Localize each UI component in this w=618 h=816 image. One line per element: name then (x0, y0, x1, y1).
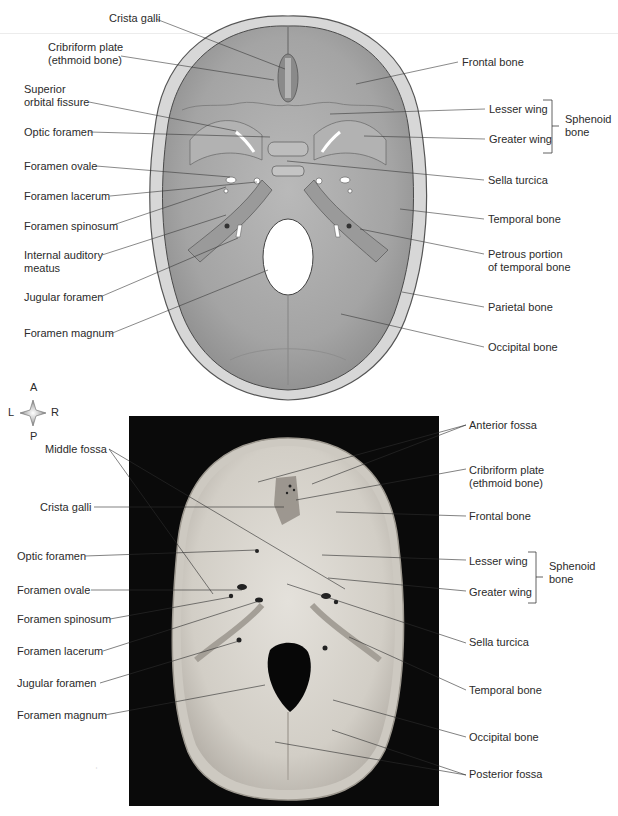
bottom-label-foramen-ovale: Foramen ovale (17, 584, 90, 597)
top-label-greater-wing: Greater wing (489, 133, 552, 146)
top-label-jugular-foramen: Jugular foramen (24, 291, 104, 304)
top-label-foramen-ovale: Foramen ovale (24, 160, 97, 173)
orientation-posterior: P (30, 430, 37, 443)
skull-illustration (150, 16, 427, 400)
bottom-label-anterior-fossa: Anterior fossa (469, 419, 537, 432)
orientation-compass-icon (20, 400, 46, 426)
top-label-superior-orbital-fissure: Superior orbital fissure (24, 83, 89, 109)
bottom-label-posterior-fossa: Posterior fossa (469, 768, 542, 781)
top-label-petrous-portion: Petrous portion of temporal bone (488, 248, 571, 274)
top-label-optic-foramen: Optic foramen (24, 126, 93, 139)
top-label-temporal-bone: Temporal bone (488, 213, 561, 226)
skull-photograph (172, 438, 403, 800)
top-label-parietal-bone: Parietal bone (488, 301, 553, 314)
bottom-label-foramen-lacerum: Foramen lacerum (17, 645, 103, 658)
top-label-internal-auditory-meatus: Internal auditory meatus (24, 249, 103, 275)
bottom-label-sella-turcica: Sella turcica (469, 636, 529, 649)
bottom-label-occipital-bone: Occipital bone (469, 731, 539, 744)
bottom-label-greater-wing: Greater wing (469, 586, 532, 599)
orientation-left: L (8, 406, 14, 419)
orientation-right: R (51, 406, 59, 419)
top-label-sphenoid-bone: Sphenoid bone (565, 113, 612, 139)
bottom-label-cribriform-plate: Cribriform plate (ethmoid bone) (469, 464, 544, 490)
top-label-foramen-spinosum: Foramen spinosum (24, 220, 118, 233)
bottom-label-crista-galli: Crista galli (40, 501, 91, 514)
bottom-label-sphenoid-bone: Sphenoid bone (549, 560, 596, 586)
stray-mark: ʾ (95, 766, 98, 776)
top-label-foramen-lacerum: Foramen lacerum (24, 190, 110, 203)
top-label-frontal-bone: Frontal bone (462, 56, 524, 69)
bottom-label-optic-foramen: Optic foramen (17, 550, 86, 563)
bottom-label-temporal-bone: Temporal bone (469, 684, 542, 697)
top-label-crista-galli: Crista galli (109, 12, 160, 25)
orientation-anterior: A (30, 381, 37, 394)
top-label-foramen-magnum: Foramen magnum (24, 327, 114, 340)
bottom-label-lesser-wing: Lesser wing (469, 555, 528, 568)
bottom-label-foramen-spinosum: Foramen spinosum (17, 613, 111, 626)
top-label-sella-turcica: Sella turcica (488, 174, 548, 187)
bottom-label-middle-fossa: Middle fossa (45, 443, 107, 456)
top-label-lesser-wing: Lesser wing (489, 103, 548, 116)
cranial-floor-figure: ʾ Crista galli Cribriform plate (ethmoid… (0, 0, 618, 816)
top-label-cribriform-plate: Cribriform plate (ethmoid bone) (48, 41, 123, 67)
top-label-occipital-bone: Occipital bone (488, 341, 558, 354)
bottom-label-foramen-magnum: Foramen magnum (17, 709, 107, 722)
bottom-label-jugular-foramen: Jugular foramen (17, 677, 97, 690)
bottom-label-frontal-bone: Frontal bone (469, 510, 531, 523)
